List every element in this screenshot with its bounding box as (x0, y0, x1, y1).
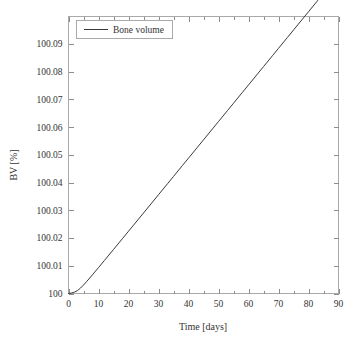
y-tick-label: 100.04 (36, 178, 62, 188)
x-tick-label: 60 (244, 299, 254, 309)
x-tick-label: 30 (154, 299, 164, 309)
data-series-group (69, 0, 339, 293)
y-axis-major-ticks (69, 45, 339, 295)
x-axis-major-ticks (70, 17, 340, 294)
plot-frame (69, 17, 339, 294)
y-tick-label: 100 (48, 289, 63, 299)
x-axis-minor-ticks (85, 17, 325, 294)
y-axis-tick-labels: 100100.01100.02100.03100.04100.05100.061… (36, 39, 62, 299)
y-tick-label: 100.02 (36, 233, 62, 243)
y-tick-label: 100.05 (36, 150, 62, 160)
series-line-bone-volume (69, 0, 339, 293)
x-tick-label: 50 (214, 299, 224, 309)
legend-label-bone-volume: Bone volume (113, 25, 164, 35)
x-tick-label: 70 (274, 299, 284, 309)
y-tick-label: 100.09 (36, 39, 62, 49)
y-tick-label: 100.07 (36, 95, 62, 105)
x-tick-label: 10 (94, 299, 104, 309)
x-axis-title: Time [days] (179, 321, 227, 332)
chart-legend: Bone volume (77, 21, 173, 39)
x-tick-label: 80 (304, 299, 314, 309)
x-tick-label: 20 (124, 299, 134, 309)
x-axis-tick-labels: 0102030405060708090 (66, 299, 343, 309)
x-tick-label: 90 (334, 299, 344, 309)
x-tick-label: 0 (66, 299, 71, 309)
chart-figure: 0102030405060708090 100100.01100.02100.0… (0, 0, 353, 341)
x-tick-label: 40 (184, 299, 194, 309)
y-axis-title: BV [%] (8, 149, 19, 180)
y-tick-label: 100.06 (36, 123, 62, 133)
line-chart: 0102030405060708090 100100.01100.02100.0… (0, 0, 353, 341)
y-tick-label: 100.01 (36, 261, 62, 271)
y-tick-label: 100.08 (36, 67, 62, 77)
y-tick-label: 100.03 (36, 206, 62, 216)
